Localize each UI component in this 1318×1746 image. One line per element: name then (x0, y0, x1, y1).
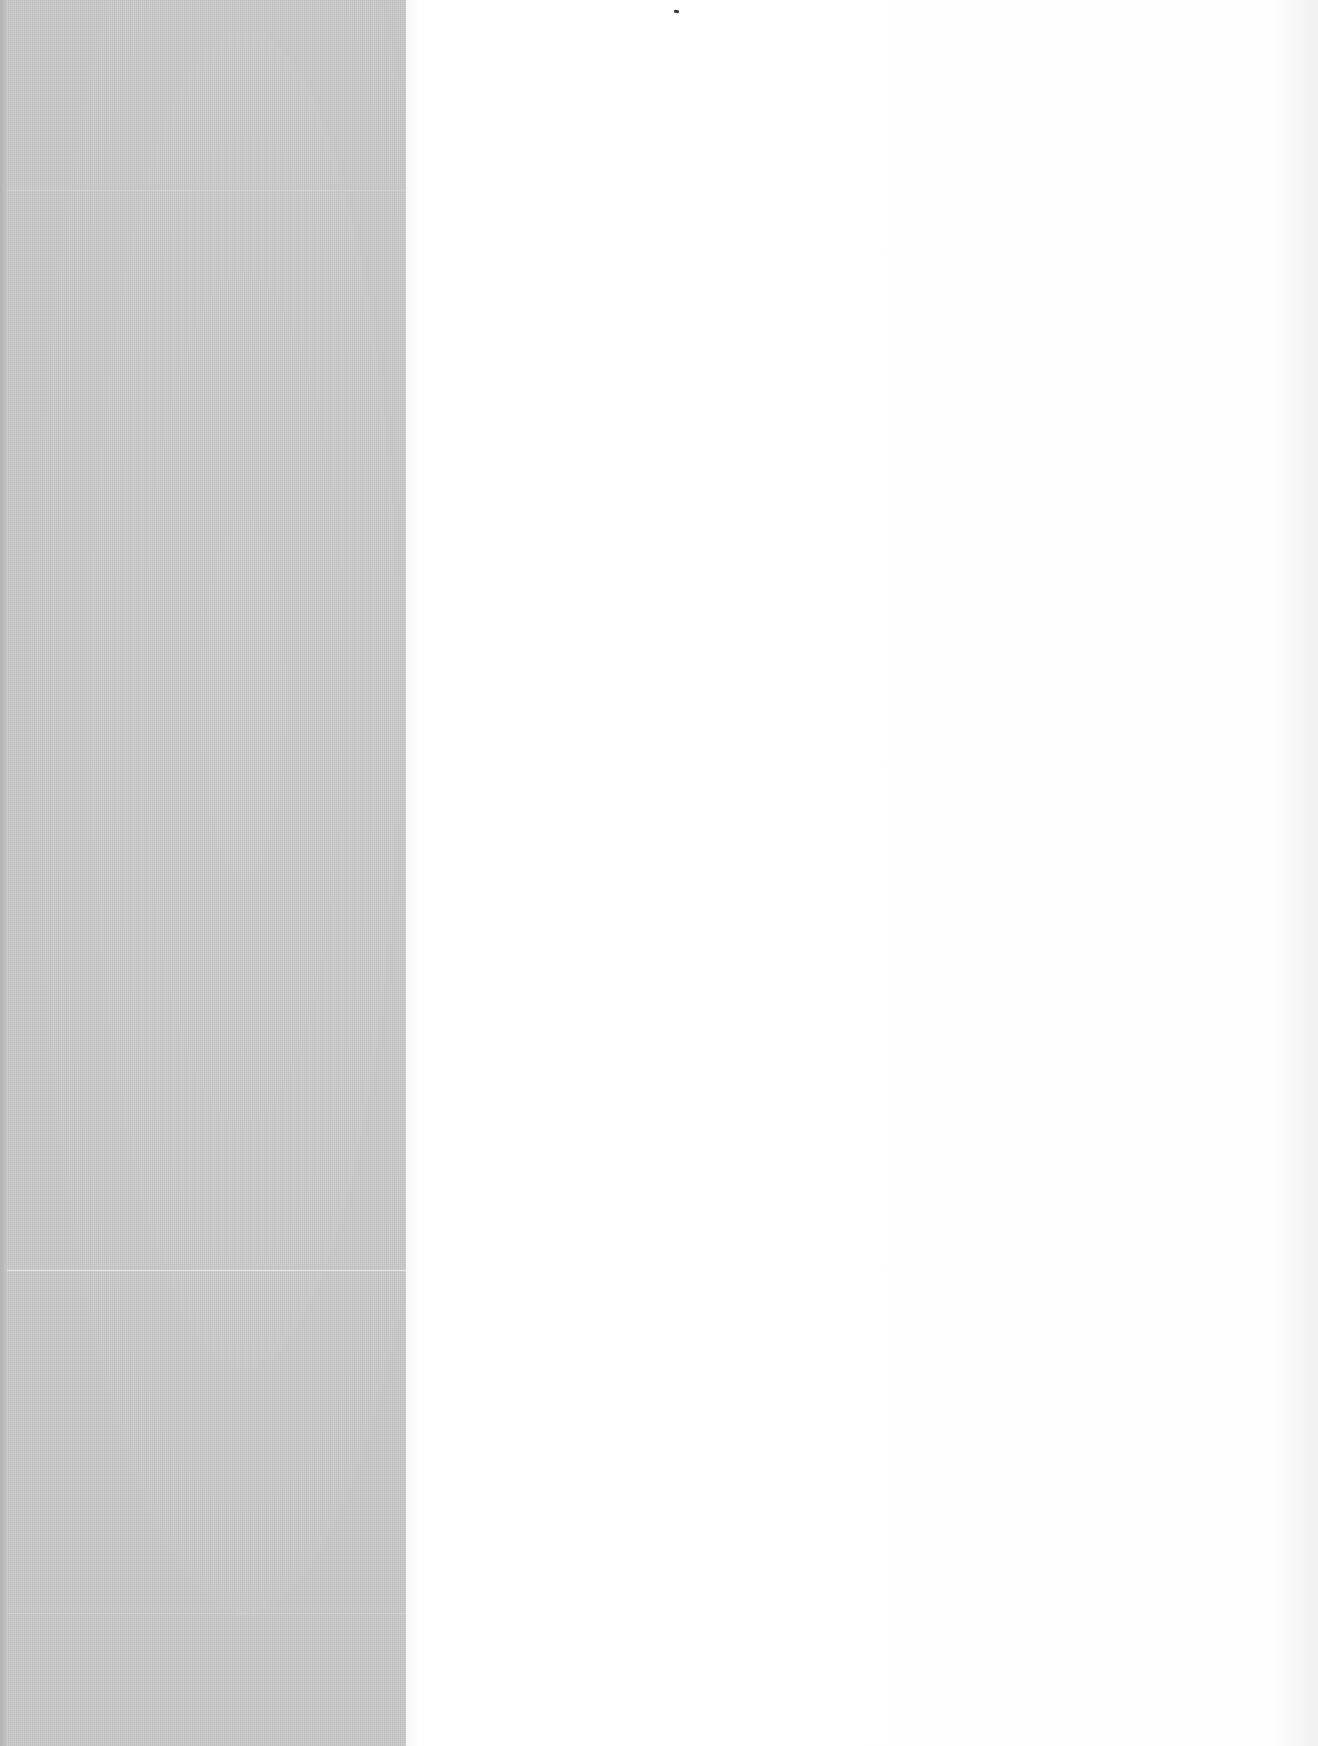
binding-edge (0, 0, 7, 1746)
crease-line (7, 1270, 406, 1271)
crease-line (7, 190, 406, 191)
crease-line (7, 1613, 406, 1614)
blank-page (406, 0, 1318, 1746)
cloth-endpaper (0, 0, 406, 1746)
